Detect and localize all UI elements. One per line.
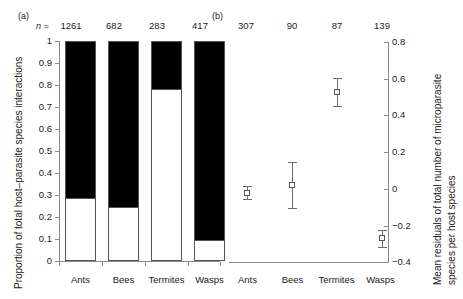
panel-b-xtick-label-bees: Bees	[272, 274, 313, 285]
panel-a-ytick-label-05: 0.5	[22, 145, 52, 156]
panel-a-tick-03	[55, 195, 59, 196]
panel-a-tick-05	[55, 151, 59, 152]
n-value-bees-a: 682	[94, 20, 134, 31]
panel-a-ytick-label-02: 0.2	[22, 211, 52, 222]
panel-b-x-axis-line	[229, 262, 389, 263]
error-bar-cap-top-bees	[288, 162, 297, 163]
panel-a-tick-07	[55, 107, 59, 108]
panel-b-xtick-label-ants: Ants	[227, 274, 268, 285]
panel-a-y-axis-line	[59, 41, 60, 262]
panel-a-tick-08	[55, 85, 59, 86]
panel-a-xtick-label-ants: Ants	[60, 274, 101, 285]
error-bar-cap-top-wasps	[378, 230, 387, 231]
n-value-bees-b: 90	[272, 20, 312, 31]
panel-b-ytick-label-0: 0	[392, 183, 426, 194]
panel-b-tick-0	[384, 189, 388, 190]
panel-a-xtick-label-wasps: Wasps	[189, 274, 230, 285]
error-bar-cap-bottom-bees	[288, 208, 297, 209]
panel-a-tick-09	[55, 63, 59, 64]
bar-ants-outline	[65, 41, 96, 261]
panel-a-x-axis-line	[59, 261, 220, 262]
panel-a-ytick-label-0: 0	[22, 255, 52, 266]
panel-b-label: (b)	[212, 11, 223, 21]
panel-a-ytick-label-06: 0.6	[22, 123, 52, 134]
panel-a-ytick-label-1: 1	[22, 35, 52, 46]
panel-b-tick-08	[384, 42, 388, 43]
panel-b-ytick-label-06: 0.6	[392, 73, 426, 84]
panel-b-tick-06	[384, 79, 388, 80]
panel-a-ytick-label-03: 0.3	[22, 189, 52, 200]
n-equals-label-a: n =	[36, 21, 49, 31]
panel-a-ytick-label-07: 0.7	[22, 101, 52, 112]
error-bar-cap-bottom-wasps	[378, 247, 387, 248]
n-value-wasps-b: 139	[362, 20, 402, 31]
panel-a-xtick-label-termites: Termites	[143, 274, 190, 285]
panel-a-xtick-4	[220, 262, 221, 266]
panel-a-ytick-label-09: 0.9	[22, 57, 52, 68]
data-point-ants[interactable]	[244, 190, 250, 196]
panel-b-tick-04	[384, 115, 388, 116]
panel-b-ytick-label-04: 0.4	[392, 109, 426, 120]
panel-a-xtick-3	[188, 262, 189, 266]
panel-a-tick-02	[55, 217, 59, 218]
data-point-termites[interactable]	[334, 89, 340, 95]
n-value-ants-b: 307	[226, 20, 266, 31]
panel-a-xtick-2	[145, 262, 146, 266]
panel-b-xtick-label-wasps: Wasps	[360, 274, 401, 285]
error-bar-cap-bottom-termites	[333, 106, 342, 107]
n-value-termites-a: 283	[137, 20, 177, 31]
bar-wasps-outline	[194, 41, 225, 261]
panel-b-ytick-label-minus02: −0.2	[392, 220, 426, 231]
panel-b-xtick-label-termites: Termites	[313, 274, 360, 285]
bar-bees-outline	[108, 41, 139, 261]
n-value-wasps-a: 417	[180, 20, 220, 31]
n-value-termites-b: 87	[317, 20, 357, 31]
n-value-ants-a: 1261	[51, 20, 91, 31]
bar-termites-outline	[151, 41, 182, 261]
panel-a-ytick-label-01: 0.1	[22, 233, 52, 244]
panel-a-ytick-label-08: 0.8	[22, 79, 52, 90]
panel-a-xtick-1	[102, 262, 103, 266]
error-bar-cap-top-termites	[333, 78, 342, 79]
panel-b-ytick-label-02: 0.2	[392, 146, 426, 157]
panel-b-tick-02	[384, 152, 388, 153]
panel-a-tick-06	[55, 129, 59, 130]
panel-b-ytick-label-08: 0.8	[392, 36, 426, 47]
panel-a-tick-01	[55, 239, 59, 240]
panel-a-xtick-0	[59, 262, 60, 266]
panel-a-xtick-label-bees: Bees	[103, 274, 144, 285]
error-bar-cap-top-ants	[243, 186, 252, 187]
data-point-bees[interactable]	[289, 182, 295, 188]
panel-b-ytick-label-minus04: −0.4	[392, 256, 426, 267]
panel-b-y-axis-title-line1: Mean residuals of total number of microp…	[432, 74, 443, 285]
panel-b-y-axis-line	[388, 42, 389, 263]
panel-b-tick-m02	[384, 226, 388, 227]
panel-a-ytick-label-04: 0.4	[22, 167, 52, 178]
panel-b-y-axis-title-line2: species per host species	[446, 175, 457, 285]
panel-a-tick-04	[55, 173, 59, 174]
panel-a-label: (a)	[18, 11, 29, 21]
error-bar-cap-bottom-ants	[243, 199, 252, 200]
data-point-wasps[interactable]	[379, 235, 385, 241]
panel-a-tick-1	[55, 41, 59, 42]
figure-root: (a) n = 1261 682 283 417 Proportion of t…	[0, 0, 463, 299]
